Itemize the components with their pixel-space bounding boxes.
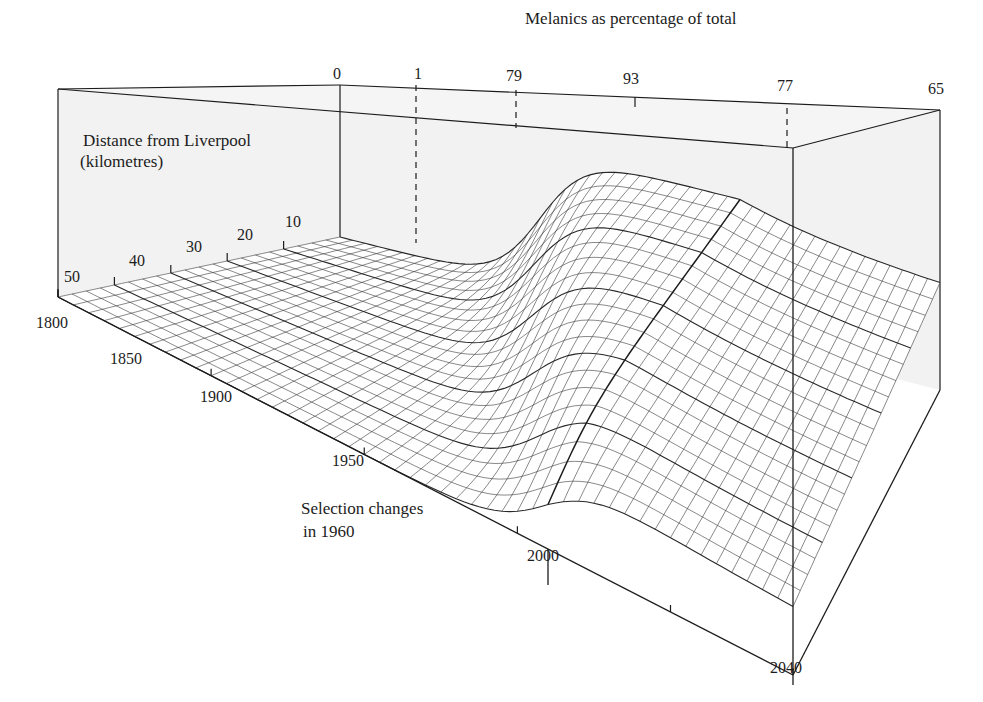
annotation-selection-year: in 1960 bbox=[303, 522, 354, 541]
top-value-3: 93 bbox=[623, 69, 639, 88]
top-value-0: 0 bbox=[333, 64, 341, 83]
annotation-selection-change: Selection changes bbox=[301, 499, 423, 518]
distance-tick-10: 10 bbox=[285, 212, 301, 231]
year-tick-1900: 1900 bbox=[200, 387, 232, 406]
year-tick-1800: 1800 bbox=[36, 313, 68, 332]
z-axis-title: Melanics as percentage of total bbox=[525, 9, 736, 28]
distance-tick-50: 50 bbox=[64, 267, 80, 286]
top-value-4: 77 bbox=[777, 76, 793, 95]
year-tick-1950: 1950 bbox=[332, 451, 364, 470]
top-value-1: 1 bbox=[414, 64, 422, 83]
year-tick-2000: 2000 bbox=[527, 546, 559, 565]
surface-plot bbox=[0, 0, 983, 702]
year-tick-2040: 2040 bbox=[770, 658, 802, 677]
melanic-surface-figure: Melanics as percentage of total 0 1 79 9… bbox=[0, 0, 983, 702]
top-value-5: 65 bbox=[928, 79, 944, 98]
distance-tick-20: 20 bbox=[237, 225, 253, 244]
top-value-2: 79 bbox=[506, 66, 522, 85]
distance-axis-label: Distance from Liverpool bbox=[83, 131, 251, 150]
distance-axis-label-units: (kilometres) bbox=[80, 152, 163, 171]
year-tick-1850: 1850 bbox=[110, 349, 142, 368]
distance-tick-40: 40 bbox=[129, 251, 145, 270]
distance-tick-30: 30 bbox=[186, 237, 202, 256]
